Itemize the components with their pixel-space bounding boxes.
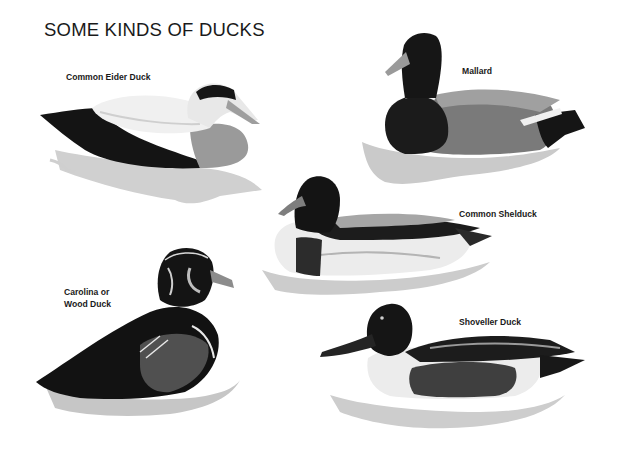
shoveller-duck-illustration	[320, 304, 585, 428]
common-shelduck-illustration	[262, 176, 492, 295]
common-eider-duck-illustration	[40, 84, 262, 204]
duck-illustrations	[0, 0, 626, 452]
wood-duck-illustration	[36, 248, 240, 416]
mallard-illustration	[362, 33, 585, 184]
